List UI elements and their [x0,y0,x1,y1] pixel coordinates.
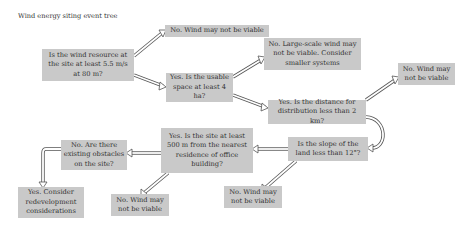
node-wind-resource-question: Is the wind resource at the site at leas… [42,49,134,81]
arrow-obstacles-yes [43,149,61,184]
node-no-wind-viable-3: No. Wind may not be viable [224,186,282,208]
node-no-wind-viable-2: No. Wind may not be viable [398,63,455,85]
node-obstacles-question: No. Are there existing obstacles on the … [61,140,127,170]
node-residence-distance-question: Yes. Is the site at least 500 m from the… [161,128,253,173]
node-redevelopment: Yes. Consider redevelopment consideratio… [18,187,84,218]
node-usable-space-question: Yes. Is the usable space at least 4 ha? [166,73,233,102]
node-no-large-scale: No. Large-scale wind may not be viable. … [264,38,361,70]
node-no-wind-viable-4: No. Wind may not be viable [111,194,169,216]
node-no-wind-viable-1: No. Wind may not be viable [165,25,269,37]
node-slope-question: Is the slope of the land less than 12°? [288,137,368,161]
node-distance-question: Yes. Is the distance for distribution le… [268,100,366,124]
